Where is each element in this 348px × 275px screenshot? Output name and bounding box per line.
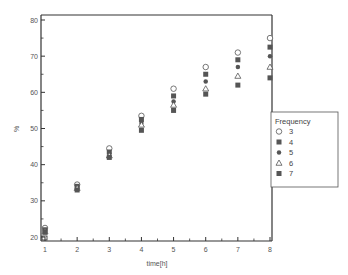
series-3 [42,35,273,230]
plot-frame [41,15,272,241]
series-5 [43,54,273,233]
y-tick-label: 50 [30,125,38,132]
x-axis: 12345678 [43,237,272,253]
legend-item-label: 4 [289,138,293,147]
x-tick-label: 3 [107,246,111,253]
legend-title: Frequency [275,117,311,126]
data-points [42,35,273,234]
x-tick-label: 8 [268,246,272,253]
legend-item-label: 5 [289,148,293,157]
series-7 [43,75,273,234]
y-tick-label: 60 [30,89,38,96]
y-axis-label: % [13,126,20,132]
x-tick-label: 7 [236,246,240,253]
x-axis-label: time[h] [146,260,167,268]
x-tick-label: 4 [139,246,143,253]
y-tick-label: 70 [30,53,38,60]
y-tick-label: 30 [30,197,38,204]
scatter-chart: 20304050607080 12345678 % time[h] Freque… [0,0,348,275]
y-axis: 20304050607080 [30,17,45,241]
y-tick-label: 20 [30,234,38,241]
legend-item-label: 6 [289,159,293,168]
x-tick-label: 5 [172,246,176,253]
x-tick-label: 1 [43,246,47,253]
x-tick-label: 2 [75,246,79,253]
x-tick-label: 6 [204,246,208,253]
y-tick-label: 40 [30,161,38,168]
legend-item-label: 3 [289,127,293,136]
legend: Frequency 34567 [271,112,338,187]
y-tick-label: 80 [30,17,38,24]
series-6 [42,64,273,234]
legend-item-label: 7 [289,169,293,178]
